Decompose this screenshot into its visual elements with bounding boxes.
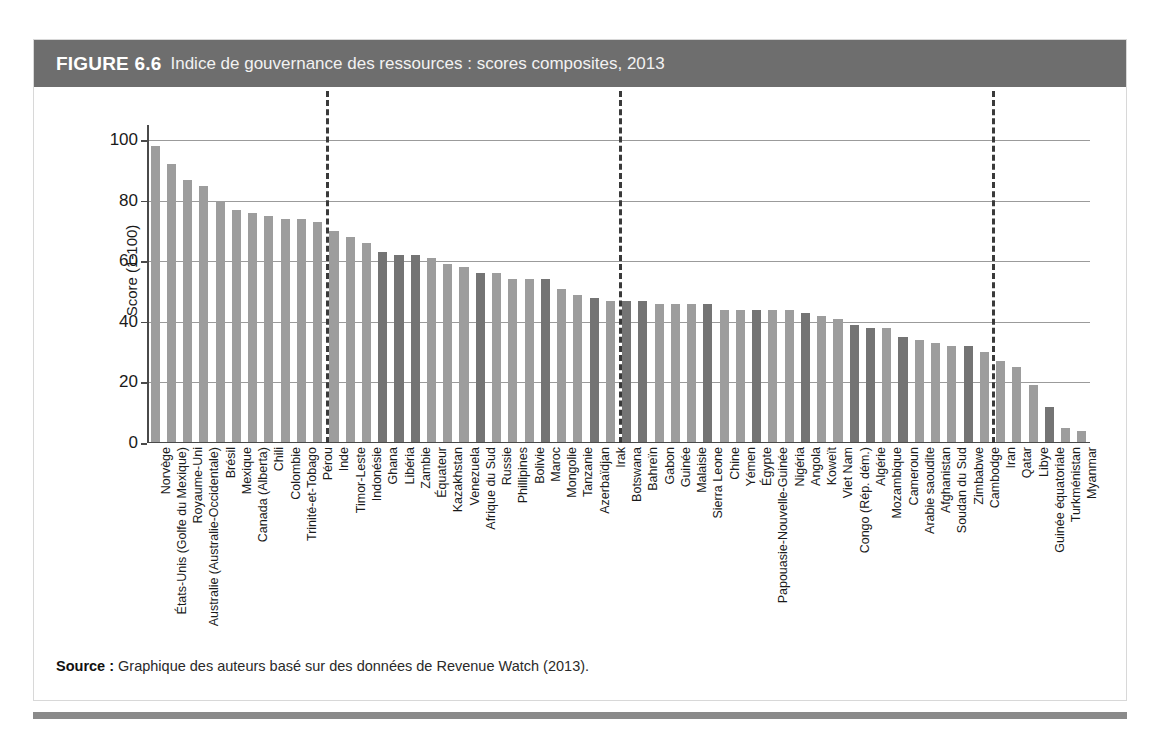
bar xyxy=(151,146,160,443)
bar xyxy=(541,279,550,443)
x-axis-category-labels: NorvègeÉtats-Unis (Golfe du Mexique)Roya… xyxy=(147,447,1090,652)
x-axis-label: Malaisie xyxy=(696,447,709,493)
x-axis-label: Bolivie xyxy=(534,447,547,484)
x-axis-label: Brésil xyxy=(225,447,238,478)
x-axis-label: Sierra Leone xyxy=(712,447,725,519)
bar xyxy=(232,210,241,443)
x-axis-label: Venezuela xyxy=(469,447,482,505)
y-tick-label-80: 80 xyxy=(119,191,138,211)
bar xyxy=(411,255,420,443)
x-axis-label: Turkménistan xyxy=(1070,447,1083,522)
x-axis-label: Azerbaïdjan xyxy=(599,447,612,514)
x-axis-label: Myanmar xyxy=(1086,447,1099,499)
bar xyxy=(427,258,436,443)
plot-wrapper: Score (1-100) 020406080100 NorvègeÉtats-… xyxy=(34,87,1126,655)
x-axis-label: Libye xyxy=(1038,447,1051,477)
figure-title-bar: FIGURE 6.6 Indice de gouvernance des res… xyxy=(34,40,1126,87)
bar xyxy=(476,273,485,443)
x-axis-label: Indonésie xyxy=(371,447,384,501)
bar xyxy=(606,301,615,443)
bar xyxy=(736,310,745,443)
x-axis-label: Ghana xyxy=(387,447,400,485)
bar xyxy=(199,186,208,443)
x-axis-label: Bahreïn xyxy=(647,447,660,491)
x-axis-label: Soudan du Sud xyxy=(956,447,969,533)
x-axis-label: Royaume-Uni xyxy=(192,447,205,523)
x-axis-label: Cambodge xyxy=(989,447,1002,508)
x-axis-label: Angola xyxy=(810,447,823,486)
bar xyxy=(671,304,680,443)
y-tick-label-40: 40 xyxy=(119,312,138,332)
x-axis-label: Guinée équatoriale xyxy=(1054,447,1067,553)
x-axis-label: Norvège xyxy=(160,447,173,494)
x-axis-label: Zimbabwe xyxy=(973,447,986,505)
y-axis-line xyxy=(147,125,149,443)
bar xyxy=(720,310,729,443)
bar xyxy=(655,304,664,443)
x-axis-label: Afrique du Sud xyxy=(485,447,498,530)
x-axis-label: Mexique xyxy=(241,447,254,494)
bar xyxy=(443,264,452,443)
x-axis-label: Égypte xyxy=(761,447,774,486)
figure-caption: Indice de gouvernance des ressources : s… xyxy=(170,54,664,74)
bar xyxy=(329,231,338,443)
bar xyxy=(703,304,712,443)
bar xyxy=(768,310,777,443)
bar xyxy=(573,295,582,443)
x-axis-label: Pérou xyxy=(322,447,335,480)
bar xyxy=(817,316,826,443)
x-axis-label: Nigéria xyxy=(794,447,807,487)
x-axis-label: Arabie saoudite xyxy=(924,447,937,534)
x-axis-label: Viet Nam xyxy=(842,447,855,498)
x-axis-label: Botswana xyxy=(631,447,644,502)
bar xyxy=(964,346,973,443)
bar xyxy=(590,298,599,443)
x-axis-label: Phillipines xyxy=(517,447,530,503)
group-divider-2 xyxy=(619,91,622,443)
source-text: Graphique des auteurs basé sur des donné… xyxy=(118,658,589,674)
bar xyxy=(362,243,371,443)
source-label: Source : xyxy=(56,658,114,674)
x-axis-label: Algérie xyxy=(875,447,888,486)
bar xyxy=(459,267,468,443)
x-axis-label: Chine xyxy=(729,447,742,480)
bar xyxy=(1029,385,1038,443)
plot-area: 020406080100 xyxy=(147,125,1090,443)
figure-card: FIGURE 6.6 Indice de gouvernance des res… xyxy=(33,39,1127,701)
bar xyxy=(216,201,225,443)
bar xyxy=(346,237,355,443)
bar xyxy=(557,289,566,443)
x-axis-label: Australie (Australie-Occidentale) xyxy=(208,447,221,626)
bar xyxy=(882,328,891,443)
bar xyxy=(1012,367,1021,443)
y-tick-label-0: 0 xyxy=(129,433,138,453)
bar xyxy=(931,343,940,443)
x-axis-label: Cameroun xyxy=(908,447,921,505)
x-axis-label: Afghanistan xyxy=(940,447,953,513)
x-axis-label: Mozambique xyxy=(891,447,904,519)
x-axis-label: Mongolie xyxy=(566,447,579,498)
bar xyxy=(850,325,859,443)
x-axis-label: Iran xyxy=(1005,447,1018,469)
x-axis-label: Guinée xyxy=(680,447,693,487)
x-axis-label: Congo (Rép. dém.) xyxy=(859,447,872,553)
x-axis-label: Koweït xyxy=(826,447,839,485)
x-axis-label: Kazakhstan xyxy=(452,447,465,512)
bar xyxy=(947,346,956,443)
x-axis-label: Trinité-et-Tobago xyxy=(306,447,319,541)
bottom-rule xyxy=(33,712,1127,719)
bar xyxy=(622,301,631,443)
bar xyxy=(752,310,761,443)
group-divider-1 xyxy=(326,91,329,443)
bar xyxy=(898,337,907,443)
bar xyxy=(378,252,387,443)
bar xyxy=(996,361,1005,443)
bar xyxy=(297,219,306,443)
bar xyxy=(866,328,875,443)
x-axis-label: États-Unis (Golfe du Mexique) xyxy=(176,447,189,614)
bar xyxy=(801,313,810,443)
y-tick-label-20: 20 xyxy=(119,372,138,392)
bar xyxy=(264,216,273,443)
x-axis-label: Colombie xyxy=(290,447,303,500)
y-tick-label-100: 100 xyxy=(110,130,138,150)
